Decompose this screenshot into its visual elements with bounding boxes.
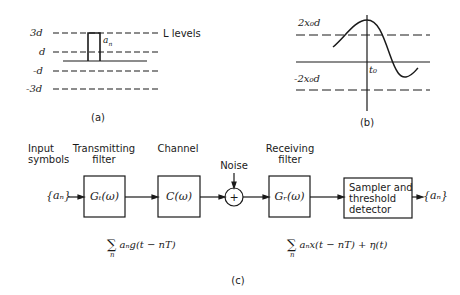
noise-label: Noise [220,160,248,171]
level-label-neg-3d: -3d [26,83,42,94]
t0-label: t₀ [369,64,377,75]
tx-filter-text: Gₜ(ω) [84,176,125,217]
tx-filter-label: Transmitting filter [73,143,135,165]
formula-rx: ∑n aₙx(t − nT) + η(t) [287,236,387,251]
input-label: Input symbols [28,143,69,165]
channel-label: Channel [157,143,198,154]
level-label-3d: 3d [30,27,43,38]
caption-c: (c) [231,275,244,286]
rx-filter-text: Gᵣ(ω) [269,176,310,217]
level-label-neg-d: -d [33,65,43,76]
channel-text: C(ω) [158,176,200,217]
arrowhead [338,195,344,199]
pulse-label: an [103,35,112,49]
arrowhead [232,182,236,188]
caption-b: (b) [360,117,374,128]
upper-threshold-label: 2x₀d [298,17,320,28]
lower-threshold-label: -2x₀d [294,73,320,84]
caption-a: (a) [91,112,105,123]
input-symbol: {aₙ} [46,190,71,201]
output-symbol: {aₙ} [423,190,448,201]
rx-filter-label: Receiving filter [266,143,314,165]
level-label-d: d [39,46,45,57]
formula-tx: ∑n aₙg(t − nT) [107,236,176,251]
arrowhead [219,195,225,199]
levels-annotation: L levels [163,28,201,39]
pulse-shape [88,33,100,61]
sampler-text: Sampler and threshold detector [349,182,413,215]
summer-plus: + [229,191,238,204]
